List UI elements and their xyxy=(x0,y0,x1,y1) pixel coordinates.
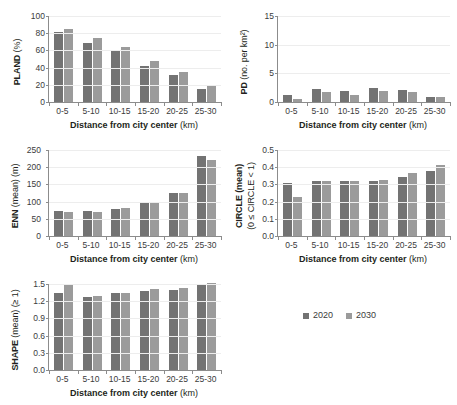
bar-group xyxy=(192,150,221,236)
chart-panel-enn: ENN (mean) (m) 050100150200250 0-55-1010… xyxy=(0,138,228,269)
bar-group xyxy=(49,284,78,370)
bar xyxy=(340,91,349,102)
y-tick-label: 50 xyxy=(32,215,41,224)
x-tick-label: 25-30 xyxy=(191,240,220,250)
bar xyxy=(64,285,73,370)
x-tick-labels-circle: 0-55-1010-1515-2020-2525-30 xyxy=(277,240,449,250)
gridline xyxy=(49,184,221,185)
legend-item: 2020 xyxy=(303,311,333,320)
bar xyxy=(179,72,188,102)
x-tick-label: 5-10 xyxy=(77,240,106,250)
bar-group xyxy=(106,16,135,102)
bar xyxy=(197,285,206,370)
x-axis-title-bold: Distance from city center xyxy=(70,120,178,130)
bar-group xyxy=(135,284,164,370)
gridline xyxy=(49,219,221,220)
bar-group xyxy=(307,150,336,236)
bar-group xyxy=(335,16,364,102)
y-tick-label: 60 xyxy=(36,46,45,55)
gridline xyxy=(278,45,450,46)
y-tick-label: 1.5 xyxy=(33,280,45,289)
gridline xyxy=(49,68,221,69)
y-tick-label: 100 xyxy=(27,197,41,206)
bar xyxy=(54,211,63,236)
y-tick-mark xyxy=(275,45,278,46)
y-tick-mark xyxy=(46,202,49,203)
y-tick-mark xyxy=(46,50,49,51)
x-tick-label: 15-20 xyxy=(134,240,163,250)
legend-label: 2020 xyxy=(313,311,333,320)
bar-groups-enn xyxy=(49,150,221,236)
y-tick-label: 80 xyxy=(36,29,45,38)
y-tick-mark xyxy=(275,184,278,185)
y-tick-mark xyxy=(46,353,49,354)
x-axis-title-bold: Distance from city center xyxy=(70,388,178,398)
bar xyxy=(83,211,92,236)
bar xyxy=(111,293,120,370)
bar-group xyxy=(364,150,393,236)
y-tick-label: 0.9 xyxy=(33,314,45,323)
bar xyxy=(369,88,378,102)
bar xyxy=(322,181,331,236)
y-tick-mark xyxy=(46,336,49,337)
bar-group xyxy=(335,150,364,236)
bar-group xyxy=(49,150,78,236)
legend-label: 2030 xyxy=(356,311,376,320)
x-tick-label: 10-15 xyxy=(105,240,134,250)
x-axis-title-unit: (km) xyxy=(180,120,198,130)
y-tick-labels-pland: 020406080100 xyxy=(22,16,48,102)
y-tick-label: 0.2 xyxy=(262,197,274,206)
bar xyxy=(293,99,302,102)
bar-group xyxy=(421,150,450,236)
bar xyxy=(169,290,178,370)
bar xyxy=(283,95,292,102)
x-axis-title-unit: (km) xyxy=(409,120,427,130)
x-tick-label: 20-25 xyxy=(163,374,192,384)
y-tick-labels-pd: 051015 xyxy=(251,16,277,102)
y-tick-mark xyxy=(275,202,278,203)
y-tick-label: 0.3 xyxy=(33,349,45,358)
bar xyxy=(179,193,188,236)
x-tick-label: 15-20 xyxy=(363,240,392,250)
bar-groups-circle xyxy=(278,150,450,236)
plot-area-pland xyxy=(48,16,221,103)
bar xyxy=(322,92,331,102)
bar-groups-pd xyxy=(278,16,450,102)
gridline xyxy=(49,150,221,151)
x-tick-label: 15-20 xyxy=(134,374,163,384)
bar xyxy=(54,293,63,370)
chart-panel-pland: PLAND (%) 020406080100 0-55-1010-1515-20… xyxy=(0,4,228,135)
y-tick-mark xyxy=(46,219,49,220)
x-axis-title-bold: Distance from city center xyxy=(299,120,407,130)
gridline xyxy=(49,353,221,354)
y-tick-mark xyxy=(46,167,49,168)
bar-group xyxy=(78,150,107,236)
x-tick-label: 10-15 xyxy=(334,106,363,116)
bar xyxy=(398,90,407,102)
x-axis-title-unit: (km) xyxy=(180,254,198,264)
bar xyxy=(312,89,321,102)
gridline xyxy=(49,284,221,285)
bar xyxy=(408,173,417,236)
y-tick-label: 0.3 xyxy=(262,180,274,189)
bar-group xyxy=(106,150,135,236)
x-tick-label: 0-5 xyxy=(277,240,306,250)
y-tick-label: 5 xyxy=(269,69,274,78)
bar-group xyxy=(78,16,107,102)
y-tick-label: 0.0 xyxy=(33,366,45,375)
bar-group xyxy=(135,150,164,236)
chart-panel-shape: SHAPE (mean) (≥ 1) 0.00.30.60.91.21.5 0-… xyxy=(0,272,228,403)
y-axis-title-bold: CIRCLE (mean) xyxy=(234,164,244,228)
gridline xyxy=(49,318,221,319)
x-tick-label: 0-5 xyxy=(48,106,77,116)
y-tick-labels-enn: 050100150200250 xyxy=(18,150,44,236)
bar-group xyxy=(164,284,193,370)
y-axis-title-bold: SHAPE xyxy=(10,340,20,371)
y-axis-title-shape: SHAPE (mean) (≥ 1) xyxy=(8,284,22,376)
y-tick-label: 0 xyxy=(40,98,45,107)
bar xyxy=(350,181,359,236)
bar-group xyxy=(278,16,307,102)
bar-group xyxy=(106,284,135,370)
x-tick-label: 25-30 xyxy=(191,374,220,384)
gridline xyxy=(49,50,221,51)
